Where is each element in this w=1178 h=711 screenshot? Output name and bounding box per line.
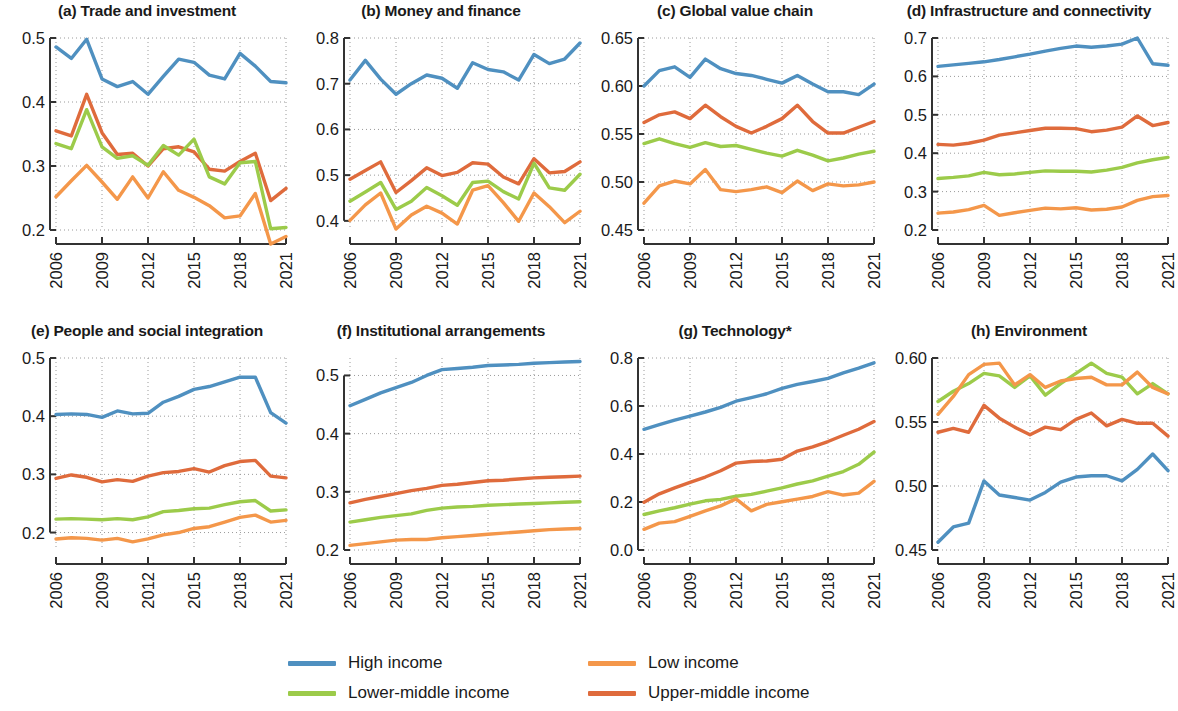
panel-g: (g) Technology* 0.00.20.40.60.8200620092… [588, 320, 882, 640]
svg-text:0.3: 0.3 [22, 157, 45, 175]
svg-text:2015: 2015 [185, 572, 203, 609]
svg-text:2006: 2006 [341, 572, 359, 609]
svg-text:2006: 2006 [635, 572, 653, 609]
svg-text:2012: 2012 [433, 572, 451, 609]
svg-text:0.55: 0.55 [895, 413, 927, 431]
svg-text:0.7: 0.7 [316, 75, 339, 93]
svg-text:2012: 2012 [727, 252, 745, 289]
panel-grid: (a) Trade and investment 0.20.30.40.5200… [0, 0, 1176, 640]
legend-swatch-lower-middle-income [288, 691, 336, 696]
panel-h-title: (h) Environment [882, 320, 1176, 344]
svg-text:0.50: 0.50 [601, 173, 633, 191]
svg-text:2006: 2006 [47, 572, 65, 609]
svg-text:2015: 2015 [1067, 572, 1085, 609]
svg-text:2012: 2012 [1021, 252, 1039, 289]
svg-text:2018: 2018 [1113, 572, 1131, 609]
svg-text:2018: 2018 [525, 252, 543, 289]
svg-text:2015: 2015 [773, 252, 791, 289]
legend-item-upper-middle-income: Upper-middle income [588, 683, 888, 703]
svg-text:2012: 2012 [139, 572, 157, 609]
svg-text:2009: 2009 [93, 572, 111, 609]
svg-text:2021: 2021 [571, 572, 588, 609]
svg-text:0.45: 0.45 [601, 221, 633, 239]
svg-text:0.8: 0.8 [610, 349, 633, 367]
svg-text:0.5: 0.5 [316, 366, 339, 384]
svg-text:0.6: 0.6 [316, 120, 339, 138]
svg-text:0.2: 0.2 [22, 524, 45, 542]
legend-swatch-low-income [588, 661, 636, 666]
svg-text:0.45: 0.45 [895, 541, 927, 559]
svg-text:0.4: 0.4 [904, 144, 927, 162]
svg-text:0.5: 0.5 [904, 106, 927, 124]
svg-text:0.55: 0.55 [601, 125, 633, 143]
svg-text:2015: 2015 [479, 572, 497, 609]
svg-text:2021: 2021 [571, 252, 588, 289]
svg-text:0.5: 0.5 [22, 349, 45, 367]
panel-e-title: (e) People and social integration [0, 320, 294, 344]
svg-text:0.3: 0.3 [22, 465, 45, 483]
svg-text:0.6: 0.6 [904, 67, 927, 85]
svg-text:2015: 2015 [773, 572, 791, 609]
svg-text:2009: 2009 [681, 252, 699, 289]
svg-text:2015: 2015 [479, 252, 497, 289]
svg-text:2021: 2021 [865, 572, 882, 609]
svg-text:0.2: 0.2 [22, 221, 45, 239]
svg-text:2021: 2021 [277, 252, 294, 289]
svg-text:0.0: 0.0 [610, 541, 633, 559]
svg-text:0.2: 0.2 [904, 221, 927, 239]
svg-text:2018: 2018 [525, 572, 543, 609]
svg-text:2009: 2009 [975, 252, 993, 289]
panel-f-plot: 0.20.30.40.5200620092012201520182021 [294, 344, 588, 636]
svg-text:0.5: 0.5 [316, 166, 339, 184]
svg-text:0.65: 0.65 [601, 29, 633, 47]
svg-text:0.4: 0.4 [610, 445, 633, 463]
svg-text:0.8: 0.8 [316, 29, 339, 47]
legend-label-low-income: Low income [648, 653, 739, 673]
svg-text:2009: 2009 [93, 252, 111, 289]
svg-text:2018: 2018 [231, 252, 249, 289]
legend-label-upper-middle-income: Upper-middle income [648, 683, 810, 703]
svg-text:2012: 2012 [727, 572, 745, 609]
svg-text:2012: 2012 [139, 252, 157, 289]
svg-text:2021: 2021 [277, 572, 294, 609]
panel-c-plot: 0.450.500.550.600.6520062009201220152018… [588, 24, 882, 316]
legend-item-lower-middle-income: Lower-middle income [288, 683, 588, 703]
panel-e: (e) People and social integration 0.20.3… [0, 320, 294, 640]
panel-b: (b) Money and finance 0.40.50.60.70.8200… [294, 0, 588, 320]
svg-text:0.4: 0.4 [316, 212, 339, 230]
svg-text:0.3: 0.3 [904, 183, 927, 201]
panel-c: (c) Global value chain 0.450.500.550.600… [588, 0, 882, 320]
svg-text:0.60: 0.60 [601, 77, 633, 95]
legend-swatch-upper-middle-income [588, 691, 636, 696]
panel-h-plot: 0.450.500.550.60200620092012201520182021 [882, 344, 1176, 636]
svg-text:2018: 2018 [819, 572, 837, 609]
panel-h: (h) Environment 0.450.500.550.6020062009… [882, 320, 1176, 640]
svg-text:2021: 2021 [865, 252, 882, 289]
svg-text:0.7: 0.7 [904, 29, 927, 47]
panel-b-plot: 0.40.50.60.70.8200620092012201520182021 [294, 24, 588, 316]
panel-e-plot: 0.20.30.40.5200620092012201520182021 [0, 344, 294, 636]
panel-b-title: (b) Money and finance [294, 0, 588, 24]
figure-container: (a) Trade and investment 0.20.30.40.5200… [0, 0, 1178, 711]
svg-text:2012: 2012 [433, 252, 451, 289]
svg-text:2021: 2021 [1159, 252, 1176, 289]
svg-text:2021: 2021 [1159, 572, 1176, 609]
svg-text:0.5: 0.5 [22, 29, 45, 47]
panel-f: (f) Institutional arrangements 0.20.30.4… [294, 320, 588, 640]
svg-text:2018: 2018 [1113, 252, 1131, 289]
panel-a-plot: 0.20.30.40.5200620092012201520182021 [0, 24, 294, 316]
svg-text:2015: 2015 [185, 252, 203, 289]
panel-a: (a) Trade and investment 0.20.30.40.5200… [0, 0, 294, 320]
panel-c-title: (c) Global value chain [588, 0, 882, 24]
svg-text:2009: 2009 [681, 572, 699, 609]
panel-a-title: (a) Trade and investment [0, 0, 294, 24]
svg-text:0.2: 0.2 [316, 541, 339, 559]
svg-text:0.3: 0.3 [316, 483, 339, 501]
svg-text:0.4: 0.4 [22, 407, 45, 425]
svg-text:0.60: 0.60 [895, 349, 927, 367]
svg-text:2006: 2006 [929, 252, 947, 289]
panel-d: (d) Infrastructure and connectivity 0.20… [882, 0, 1176, 320]
svg-text:2006: 2006 [635, 252, 653, 289]
svg-text:2006: 2006 [47, 252, 65, 289]
svg-text:0.2: 0.2 [610, 493, 633, 511]
